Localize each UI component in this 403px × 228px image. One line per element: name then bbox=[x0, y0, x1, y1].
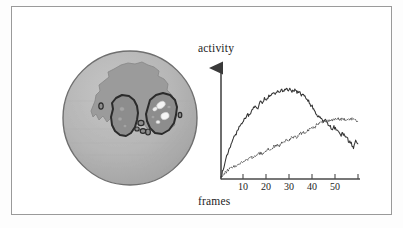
x-tick-label-10: 10 bbox=[238, 181, 248, 192]
x-tick-label-40: 40 bbox=[307, 181, 317, 192]
activation-blob-left bbox=[111, 95, 138, 136]
activity-chart: activity frames bbox=[192, 37, 372, 217]
x-tick-group bbox=[243, 174, 358, 179]
brain-map-svg bbox=[55, 43, 205, 193]
x-tick-label-50: 50 bbox=[330, 181, 340, 192]
lower-activity-curve bbox=[221, 117, 358, 179]
x-tick-label-20: 20 bbox=[261, 181, 271, 192]
figure-root: activity frames bbox=[0, 0, 403, 228]
chart-svg bbox=[192, 37, 372, 217]
brain-activation-image bbox=[55, 43, 205, 193]
x-tick-label-30: 30 bbox=[284, 181, 294, 192]
upper-activity-curve bbox=[221, 88, 358, 177]
figure-frame: activity frames bbox=[11, 6, 392, 215]
